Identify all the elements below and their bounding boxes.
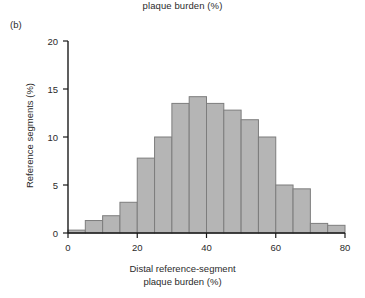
x-tick-label: 0 [65,242,70,253]
histogram-bar [103,216,120,233]
y-tick-label: 15 [47,84,58,95]
x-tick-label: 20 [132,242,143,253]
histogram-bar [189,97,206,233]
histogram-figure: plaque burden (%) (b) Reference segments… [0,0,365,298]
y-tick-label: 0 [53,228,58,239]
histogram-bar [241,120,258,233]
histogram-bar [120,202,137,233]
y-tick-label: 10 [47,132,58,143]
histogram-bar [293,189,310,233]
histogram-bar [137,158,154,233]
histogram-bar [207,103,224,233]
histogram-bar [276,185,293,233]
y-tick-label: 20 [47,36,58,47]
x-tick-label: 60 [270,242,281,253]
histogram-bar [155,137,172,233]
x-tick-label: 80 [340,242,351,253]
histogram-bar [310,223,327,233]
plot-area: 05101520020406080 [0,0,365,298]
histogram-bar [258,137,275,233]
histogram-bar [224,110,241,233]
x-tick-label: 40 [201,242,212,253]
histogram-bar [85,221,102,233]
y-tick-label: 5 [53,180,58,191]
histogram-bar [172,103,189,233]
histogram-bars [68,97,345,233]
histogram-bar [328,225,345,233]
